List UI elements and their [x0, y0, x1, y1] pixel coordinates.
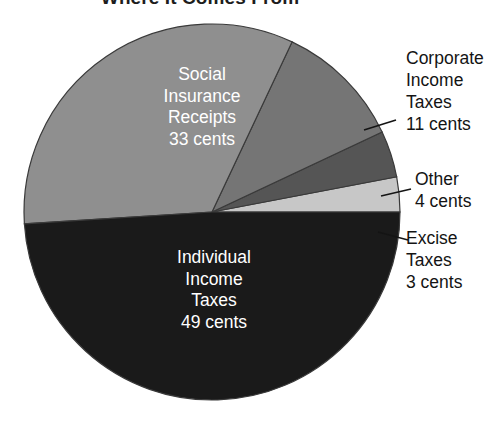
slice-label-corporate-income-taxes: Corporate Income Taxes 11 cents — [406, 47, 484, 135]
pie-chart-figure: Where It Comes From Social Insurance Rec… — [0, 0, 497, 433]
slice-label-excise-taxes: Excise Taxes 3 cents — [406, 227, 462, 293]
pie-slice-individual-income-taxes[interactable] — [24, 212, 400, 400]
slice-label-other: Other 4 cents — [415, 168, 471, 212]
